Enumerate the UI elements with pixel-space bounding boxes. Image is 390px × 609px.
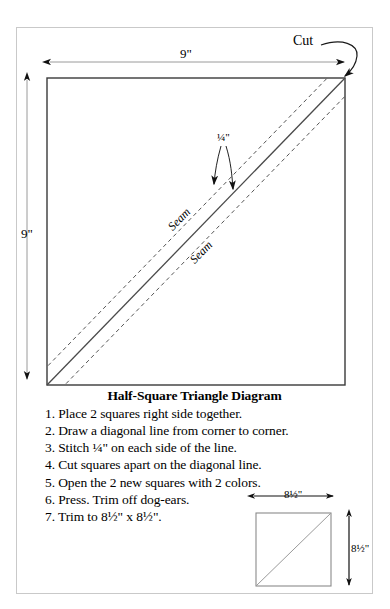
page-title: Half-Square Triangle Diagram — [17, 388, 372, 404]
list-item: 1. Place 2 squares right side together. — [17, 405, 372, 422]
instructions-block: Half-Square Triangle Diagram 1. Place 2 … — [17, 388, 372, 525]
list-item: 6. Press. Trim off dog-ears. — [17, 491, 372, 508]
cut-arrow — [321, 42, 357, 76]
cut-label: Cut — [293, 34, 313, 48]
list-item: 5. Open the 2 new squares with 2 colors. — [17, 474, 372, 491]
instruction-steps-list: 1. Place 2 squares right side together. … — [17, 405, 372, 526]
list-item: 7. Trim to 8½" x 8½". — [17, 508, 372, 525]
list-item: 4. Cut squares apart on the diagonal lin… — [17, 456, 372, 473]
half-square-triangle-figure: 9" 9" Cut ¼" Seam Seam Half-Square Trian… — [0, 0, 390, 609]
list-item: 3. Stitch ¼" on each side of the line. — [17, 439, 372, 456]
small-square-top-dimension-label: 8½" — [284, 489, 302, 500]
list-item: 2. Draw a diagonal line from corner to c… — [17, 422, 372, 439]
left-dimension-label: 9" — [21, 227, 33, 240]
top-dimension-label: 9" — [180, 47, 192, 60]
small-square-right-dimension-label: 8½" — [351, 543, 369, 554]
seam-allowance-label: ¼" — [217, 132, 230, 143]
